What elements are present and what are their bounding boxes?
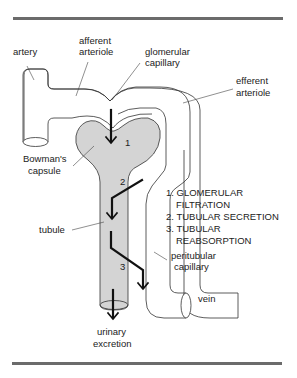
- label-vein: vein: [198, 293, 215, 304]
- label-efferent-2: arteriole: [236, 87, 270, 98]
- label-glomerular-2: capillary: [145, 57, 180, 68]
- legend-line-5: REABSORPTION: [176, 235, 252, 246]
- bowmans-capsule-tubule: [76, 118, 161, 310]
- label-urinary-1: urinary: [97, 326, 126, 337]
- process-legend: 1. GLOMERULAR FILTRATION 2. TUBULAR SECR…: [166, 187, 279, 246]
- label-bowman-2: capsule: [28, 165, 61, 176]
- label-bowman-1: Bowman's: [23, 153, 67, 164]
- step-number-2: 2: [120, 176, 125, 187]
- label-afferent-2: arteriole: [79, 46, 113, 57]
- legend-line-2: FILTRATION: [176, 199, 230, 210]
- label-artery: artery: [13, 46, 38, 57]
- label-efferent-1: efferent: [236, 75, 268, 86]
- label-peritubular-2: capillary: [174, 261, 209, 272]
- nephron-diagram: artery afferent arteriole glomerular cap…: [0, 0, 297, 378]
- label-glomerular-1: glomerular: [145, 46, 190, 57]
- label-afferent-1: afferent: [79, 35, 111, 46]
- label-urinary-2: excretion: [93, 338, 132, 349]
- step-number-1: 1: [125, 137, 130, 148]
- label-tubule: tubule: [39, 224, 65, 235]
- step-number-3: 3: [120, 261, 125, 272]
- legend-line-4: 3. TUBULAR: [166, 223, 221, 234]
- label-peritubular-1: peritubular: [171, 250, 216, 261]
- legend-line-1: 1. GLOMERULAR: [166, 187, 243, 198]
- legend-line-3: 2. TUBULAR SECRETION: [166, 211, 279, 222]
